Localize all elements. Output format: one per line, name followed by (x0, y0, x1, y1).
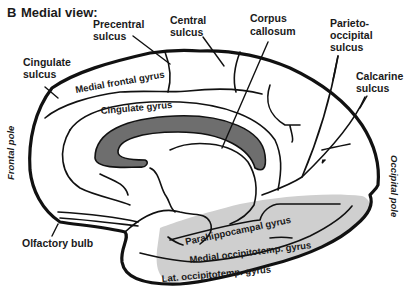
label-cingulate-gyrus: Cingulate gyrus (100, 99, 172, 116)
medial-frontal-boundary (165, 52, 170, 92)
svg-text:Corpus: Corpus (250, 12, 287, 24)
svg-text:sulcus: sulcus (170, 26, 203, 38)
svg-text:Cingulate: Cingulate (23, 56, 71, 68)
label-olfactory-bulb: Olfactory bulb (22, 237, 93, 249)
parieto-occipital-leader (333, 56, 338, 80)
label-parieto-occipital-sulcus: Parieto- occipital sulcus (330, 17, 373, 53)
panel-title: Medial view: (21, 5, 98, 20)
svg-text:Parieto-: Parieto- (330, 17, 370, 29)
precuneus-line (268, 85, 300, 142)
medial-brain-diagram: B Medial view: Precentral sulcus C (0, 0, 406, 297)
svg-text:Central: Central (170, 14, 206, 26)
olfactory-bulb-leader (52, 224, 58, 236)
svg-text:sulcus: sulcus (330, 41, 363, 53)
svg-text:sulcus: sulcus (93, 30, 126, 42)
calcarine-sulcus-leader (360, 96, 367, 108)
label-calcarine-sulcus: Calcarine sulcus (356, 70, 403, 94)
panel-letter: B (7, 5, 16, 20)
label-central-sulcus: Central sulcus (170, 14, 206, 38)
label-occipital-pole: Occipital pole (389, 155, 400, 218)
svg-text:sulcus: sulcus (23, 68, 56, 80)
label-corpus-callosum: Corpus callosum (250, 12, 296, 37)
svg-text:Calcarine: Calcarine (356, 70, 403, 82)
corpus-callosum-shape (95, 116, 265, 170)
svg-text:sulcus: sulcus (356, 82, 389, 94)
label-frontal-pole: Frontal pole (5, 125, 16, 180)
paracentral-line (234, 52, 240, 92)
svg-text:occipital: occipital (330, 29, 373, 41)
svg-text:callosum: callosum (250, 25, 296, 37)
subcallosal-line (100, 168, 175, 212)
label-cingulate-sulcus: Cingulate sulcus (23, 56, 71, 80)
svg-text:Precentral: Precentral (93, 18, 144, 30)
figure-title: B Medial view: (7, 5, 98, 20)
